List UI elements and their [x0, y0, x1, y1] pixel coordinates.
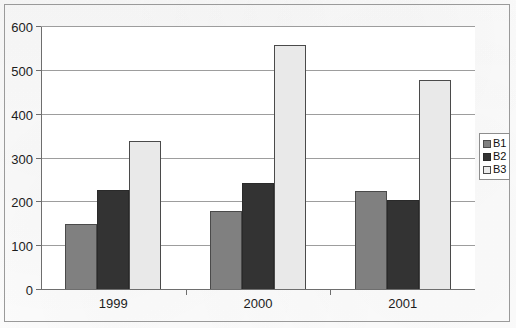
- chart-figure: 0100200300400500600 199920002001 B1B2B3: [0, 0, 516, 328]
- x-axis-category-labels: 199920002001: [41, 296, 475, 316]
- legend-item-B3: B3: [483, 163, 506, 176]
- bar-B3-2001: [419, 80, 451, 290]
- legend-label: B3: [493, 164, 506, 175]
- category-label-2000: 2000: [244, 296, 273, 311]
- legend-swatch-icon-B2: [483, 153, 491, 161]
- gridline-400: [41, 114, 475, 115]
- legend-item-B2: B2: [483, 150, 506, 163]
- y-axis-line: [41, 27, 42, 290]
- bar-B1-1999: [65, 224, 97, 290]
- legend-label: B1: [493, 138, 506, 149]
- gridline-500: [41, 70, 475, 71]
- bar-B2-2001: [387, 200, 419, 290]
- legend-item-B1: B1: [483, 137, 506, 150]
- y-tick-label: 500: [11, 64, 33, 77]
- legend-swatch-icon-B1: [483, 140, 491, 148]
- chart-legend: B1B2B3: [479, 133, 510, 180]
- y-tick-label: 400: [11, 108, 33, 121]
- x-axis-line: [41, 289, 475, 290]
- gridline-300: [41, 158, 475, 159]
- category-label-1999: 1999: [99, 296, 128, 311]
- category-label-2001: 2001: [388, 296, 417, 311]
- y-tick-label: 200: [11, 196, 33, 209]
- y-tick-label: 300: [11, 152, 33, 165]
- bar-B3-1999: [129, 141, 161, 290]
- y-tick-label: 600: [11, 21, 33, 34]
- bar-B2-2000: [242, 183, 274, 290]
- y-axis-tick-labels: 0100200300400500600: [0, 27, 33, 290]
- y-tick-label: 100: [11, 240, 33, 253]
- legend-label: B2: [493, 151, 506, 162]
- y-tick-label: 0: [26, 284, 33, 297]
- bar-B2-1999: [97, 190, 129, 290]
- bar-B3-2000: [274, 45, 306, 290]
- category-separator-tick: [186, 290, 187, 295]
- gridline-600: [41, 26, 475, 27]
- bar-B1-2000: [210, 211, 242, 290]
- bar-B1-2001: [355, 191, 387, 290]
- legend-swatch-icon-B3: [483, 166, 491, 174]
- category-separator-tick: [330, 290, 331, 295]
- plot-area: [41, 27, 475, 290]
